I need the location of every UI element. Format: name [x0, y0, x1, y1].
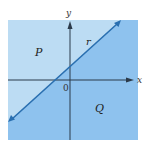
region-q-label: Q [95, 102, 104, 115]
x-axis-label: x [137, 75, 142, 85]
y-axis-label: y [65, 8, 72, 18]
origin-label: 0 [63, 83, 69, 93]
half-plane-diagram: y x 0 r P Q [0, 0, 147, 147]
region-p-label: P [34, 46, 43, 59]
